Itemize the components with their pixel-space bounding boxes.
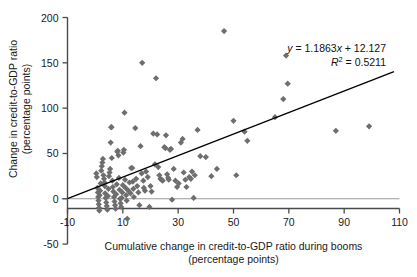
x-axis-tick-label: 50 xyxy=(228,216,240,228)
data-point-marker xyxy=(203,154,209,160)
data-point-marker xyxy=(181,169,187,175)
data-point-marker xyxy=(136,202,142,208)
x-axis-tick-label: -10 xyxy=(60,216,75,228)
data-point-marker xyxy=(108,124,114,130)
data-point-marker xyxy=(149,188,155,194)
data-point-marker xyxy=(233,172,239,178)
y-axis-tick-label: 0 xyxy=(53,193,59,205)
x-axis-tick-label: 90 xyxy=(338,216,350,228)
y-axis-tick-label: 200 xyxy=(41,12,59,24)
trend-line xyxy=(68,72,394,199)
data-point-marker xyxy=(147,183,153,189)
data-point-marker xyxy=(121,110,127,116)
data-point-marker xyxy=(137,143,143,149)
x-axis-tick-label: 110 xyxy=(391,216,408,228)
data-point-marker xyxy=(208,173,214,179)
data-point-marker xyxy=(333,128,339,134)
data-point-marker xyxy=(109,155,115,161)
data-point-marker xyxy=(132,125,138,131)
data-point-marker xyxy=(366,123,372,129)
data-point-marker xyxy=(139,60,145,66)
y-axis-title: Change in credit-to-GDP ratio(percentage… xyxy=(7,40,32,178)
data-point-marker xyxy=(171,166,177,172)
chart-canvas: -50050100150200-101030507090110y = 1.186… xyxy=(0,0,417,277)
data-point-marker xyxy=(194,127,200,133)
y-axis-tick-label: 50 xyxy=(47,147,59,159)
data-point-marker xyxy=(214,166,220,172)
x-axis-tick-label: 70 xyxy=(283,216,295,228)
data-point-marker xyxy=(108,139,114,145)
data-point-marker xyxy=(145,174,151,180)
data-point-marker xyxy=(221,28,227,34)
regression-equation-label: y = 1.1863x + 12.127 xyxy=(286,42,386,54)
y-axis-tick-label: -50 xyxy=(43,238,58,250)
data-point-marker xyxy=(183,184,189,190)
data-point-marker xyxy=(280,96,286,102)
y-axis-tick-label: 100 xyxy=(41,102,59,114)
r-squared-label: R2 = 0.5211 xyxy=(331,55,386,69)
scatter-chart-figure: -50050100150200-101030507090110y = 1.186… xyxy=(0,0,417,277)
data-point-marker xyxy=(230,118,236,124)
data-point-marker xyxy=(153,75,159,81)
data-point-marker xyxy=(135,189,141,195)
x-axis-title: Cumulative change in credit-to-GDP ratio… xyxy=(105,240,363,265)
data-point-marker xyxy=(140,178,146,184)
data-point-marker xyxy=(191,195,197,201)
y-axis-tick-label: 150 xyxy=(41,57,59,69)
data-point-marker xyxy=(163,132,169,138)
data-point-marker xyxy=(197,153,203,159)
data-point-marker xyxy=(129,165,135,171)
data-point-marker xyxy=(285,81,291,87)
data-point-marker xyxy=(244,138,250,144)
data-point-marker xyxy=(169,197,175,203)
x-axis-tick-label: 30 xyxy=(172,216,184,228)
